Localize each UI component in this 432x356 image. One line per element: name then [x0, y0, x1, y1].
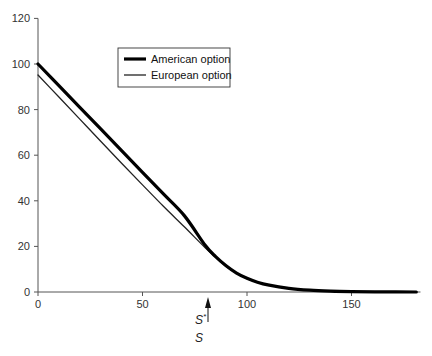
legend: American option European option [118, 48, 232, 87]
y-axis: 020406080100120 [12, 12, 38, 298]
y-tick-label: 120 [12, 12, 30, 24]
series-layer [38, 64, 416, 292]
axis-variable-label: S [195, 331, 203, 345]
x-tick-label: 50 [136, 298, 148, 310]
arrow-up-icon [205, 297, 211, 308]
y-tick-label: 20 [18, 240, 30, 252]
legend-label-european: European option [151, 69, 232, 81]
y-tick-label: 100 [12, 58, 30, 70]
y-tick-label: 80 [18, 104, 30, 116]
critical-price-annotation: S* S [195, 297, 211, 345]
y-tick-label: 40 [18, 195, 30, 207]
x-tick-label: 150 [342, 298, 360, 310]
y-tick-label: 0 [24, 286, 30, 298]
series-european-option [38, 75, 416, 292]
critical-price-label: S* [195, 312, 207, 327]
chart-figure: 020406080100120 050100150 American optio… [0, 0, 432, 356]
y-tick-label: 60 [18, 149, 30, 161]
x-tick-label: 100 [238, 298, 256, 310]
x-tick-label: 0 [35, 298, 41, 310]
legend-label-american: American option [151, 53, 231, 65]
series-american-option [38, 64, 416, 292]
x-axis: 050100150 [35, 292, 421, 310]
